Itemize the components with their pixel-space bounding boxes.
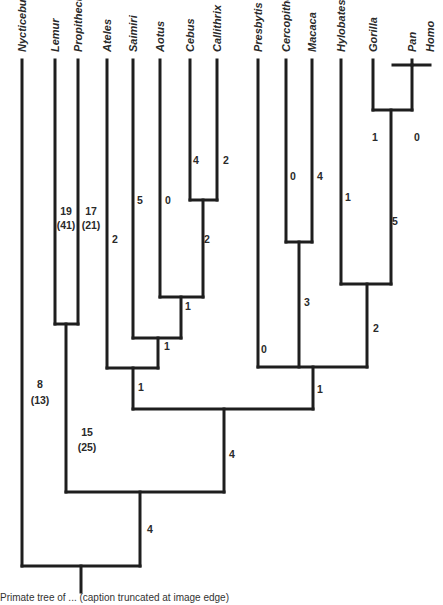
taxon-label-callithrix: Callithrix: [211, 4, 223, 52]
taxon-label-pan: Pan: [406, 32, 418, 52]
branch-length-label: 4: [193, 154, 199, 166]
branch-length-label: 0: [290, 170, 296, 182]
branch-length-label: 2: [373, 322, 379, 334]
taxon-label-cercopithecus: Cercopithecus: [280, 0, 292, 52]
taxon-label-macaca: Macaca: [306, 12, 318, 52]
taxon-label-nycticebus: Nycticebus: [16, 0, 28, 52]
taxon-label-homo: Homo: [424, 21, 436, 52]
branch-length-label: 1: [345, 191, 351, 203]
branch-length-label: 8: [37, 378, 43, 390]
branch-length-label: (25): [78, 441, 97, 453]
taxon-label-gorilla: Gorilla: [367, 17, 379, 52]
branch-length-label: 4: [147, 523, 153, 535]
taxon-label-presbytis: Presbytis: [252, 2, 264, 52]
branch-length-label: (13): [31, 394, 50, 406]
branch-length-label: 0: [414, 131, 420, 143]
figure-caption: Primate tree of ... (caption truncated a…: [0, 592, 229, 603]
branch-length-label: 0: [165, 194, 171, 206]
branch-length-label: 17: [85, 205, 97, 217]
branch-length-label: 2: [223, 154, 229, 166]
branch-length-label: 15: [81, 426, 93, 438]
taxon-label-cebus: Cebus: [184, 18, 196, 52]
tree-branches: [22, 60, 430, 592]
taxon-label-saimiri: Saimiri: [127, 14, 139, 52]
branch-length-label: 5: [137, 194, 143, 206]
taxon-label-lemur: Lemur: [49, 18, 61, 52]
branch-length-label: 5: [392, 215, 398, 227]
taxon-label-ateles: Ateles: [101, 19, 113, 53]
taxon-label-hylobates: Hylobates: [335, 0, 347, 52]
taxon-labels: NycticebusLemurPropithecusAtelesSaimiriA…: [16, 0, 436, 53]
branch-length-label: 19: [60, 205, 72, 217]
branch-length-label: 1: [138, 381, 144, 393]
taxon-label-aotus: Aotus: [154, 21, 166, 53]
branch-length-label: 2: [112, 233, 118, 245]
branch-length-label: 4: [317, 170, 323, 182]
phylogenetic-tree: NycticebusLemurPropithecusAtelesSaimiriA…: [0, 0, 443, 605]
branch-length-label: 3: [304, 296, 310, 308]
branch-length-label: 1: [372, 131, 378, 143]
branch-length-label: 4: [229, 448, 235, 460]
branch-length-label: 1: [164, 340, 170, 352]
branch-length-label: (21): [82, 219, 101, 231]
branch-length-label: 2: [204, 233, 210, 245]
branch-length-label: 1: [317, 383, 323, 395]
taxon-label-propithecus: Propithecus: [72, 0, 84, 52]
branch-length-label: 0: [261, 343, 267, 355]
branch-length-label: (41): [57, 219, 76, 231]
branch-length-label: 1: [185, 300, 191, 312]
